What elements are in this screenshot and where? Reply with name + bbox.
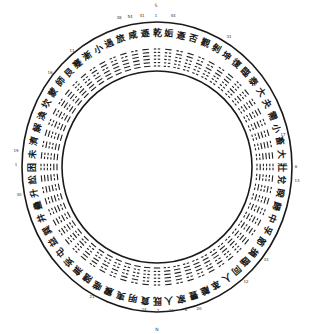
hexagram-number-label: 31 [226,34,232,39]
hexagram [41,164,57,170]
hexagram-number-label: 30 [16,192,22,197]
hexagram-name-char: 豐 [188,289,200,302]
hexagram-name-char: 妄 [61,255,75,269]
hexagram-number-label: 19 [13,148,19,153]
hexagram [183,53,194,71]
hexagram [99,255,112,273]
hexagram [244,109,261,123]
hexagram [248,203,265,215]
hexagram-name-char: 家 [175,293,187,306]
hexagram [45,130,62,141]
hexagram-name-char: 睽 [274,188,287,200]
hexagram-name-char: 歸 [271,200,284,212]
hexagram-name-char: 離 [199,284,212,298]
hexagram-name-char: 壯 [277,163,288,172]
hexagram-number-label: 8 [185,307,188,312]
hexagram-number-label: 23 [168,308,174,313]
hexagram-number-label: 2 [157,308,160,313]
hexagram-name-char: 漸 [80,48,94,62]
direction-label: S [155,3,158,8]
hexagram [120,263,131,281]
hexagram [43,184,60,194]
hexagram-name-char: 隨 [80,272,94,286]
hexagram-name-char: 訟 [26,174,38,185]
hexagram-name-char: 否 [187,32,199,44]
hexagram-name-char: 姤 [163,27,174,39]
hexagram [225,236,241,253]
hexagram [41,152,58,160]
hexagram-name-char: 未 [26,148,38,160]
hexagram [131,51,140,69]
hexagram [201,255,214,273]
hexagram-name-char: 觀 [199,36,212,50]
hexagram-name-char: 渙 [34,108,48,121]
hexagram-name-char: 震 [102,284,116,297]
hexagram-name-char: 濟 [28,135,41,146]
hexagram-number-label: 1 [15,162,18,167]
hexagram [154,49,160,66]
hexagram-name-char: 困 [27,163,37,172]
hexagram-number-label: 41 [139,13,145,18]
hexagram-number-label: 12 [243,279,249,284]
hexagram-name-char: 賁 [140,295,150,307]
hexagram-name-char: 夷 [114,289,127,302]
hexagram-name-char: 蠱 [30,200,43,212]
hexagram [73,236,89,253]
hexagram-name-char: 同 [230,264,243,277]
hexagram [73,81,89,98]
hexagram [41,174,58,182]
hexagram-name-char: 巽 [39,224,53,237]
hexagram-name-char: 坎 [39,96,53,110]
hexagram-number-label: 6 [295,164,298,169]
hexagram [248,119,265,131]
hexagram-name-char: 解 [30,122,43,134]
hexagram [142,267,150,285]
hexagram-name-char: 孚 [261,224,275,237]
hexagram-name-char: 大 [254,85,268,99]
hexagram-name-char: 旅 [115,32,127,45]
hexagram-name-char: 大 [276,149,288,159]
hexagram [49,119,66,131]
hexagram [45,193,62,204]
hexagram-name-char: 既 [153,296,162,306]
hexagram-name-char: 節 [254,234,269,248]
hexagram [252,130,269,141]
hexagram [43,141,60,151]
hexagram-name-char: 屯 [53,245,67,259]
hexagram-ring [41,49,273,285]
hexagram-name-char: 臨 [239,255,253,269]
direction-label: N [155,327,158,332]
hexagram [142,49,150,67]
hexagram [254,184,271,194]
hexagram-number-label: 54 [127,14,133,19]
hexagram-number-label: 33 [263,257,269,262]
hexagram [201,61,214,79]
hexagram-name-char: 需 [266,110,279,122]
hexagram-name-char: 明 [127,293,138,305]
hexagram-number-label: 20 [196,306,202,311]
hexagram [244,212,261,226]
hexagram [131,265,140,283]
hexagram [192,57,204,75]
character-ring: 乾姤遯否觀剝坤復臨泰大夬需小畜大壯兌睽歸中孚節損臨同人革離豐家人既賁明夷震噬隨無… [26,27,288,307]
hexagram [173,51,182,69]
hexagram-name-char: 剝 [210,41,223,55]
hexagram [173,265,182,283]
hexagram-number-label: 17 [280,132,286,137]
hexagram [257,164,273,170]
hexagram [99,61,112,79]
hexagram [110,57,122,75]
hexagram-name-char: 夬 [261,97,275,111]
hexagram-name-char: 乾 [153,27,162,38]
hexagram-number-label: 16 [47,70,53,75]
hexagram-name-char: 兌 [276,175,288,185]
hexagram [49,203,66,215]
hexagram-name-char: 坤 [220,48,234,62]
hexagram [120,53,131,71]
hexagram-name-char: 過 [102,36,116,50]
hexagram-name-char: 無 [70,264,84,278]
hexagram-name-char: 小 [90,41,104,55]
hexagram-name-char: 益 [46,235,60,249]
hexagram [154,268,160,285]
hexagram-name-char: 人 [163,295,175,307]
